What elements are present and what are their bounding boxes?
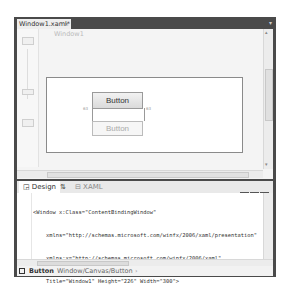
margin-marker-right: 63 (146, 106, 151, 111)
document-tab-label: Window1.xaml* (19, 20, 70, 28)
zoom-rail (17, 29, 39, 167)
tab-xaml[interactable]: ⊟ XAML (75, 181, 103, 193)
xaml-code[interactable]: <Window x:Class="ContentBindingWindow" x… (33, 194, 261, 294)
editor-frame: Window1.xaml* × ▾ Window1 Button 63 63 B… (14, 17, 276, 277)
element-icon (19, 268, 25, 274)
design-view-icon: ◲ (23, 183, 32, 191)
tab-design-label: Design (32, 183, 56, 191)
xaml-view-icon: ⊟ (75, 183, 83, 191)
document-tab-window1[interactable]: Window1.xaml* × (17, 19, 71, 29)
designer-button-selected[interactable]: Button (92, 92, 143, 109)
xaml-editor[interactable]: <Window x:Class="ContentBindingWindow" x… (17, 193, 273, 259)
code-line: xmlns="http://schemas.microsoft.com/winf… (33, 232, 261, 240)
code-gutter (17, 193, 32, 259)
design-surface[interactable]: Window1 Button 63 63 Button ▴ ▾ (17, 29, 273, 179)
close-icon[interactable]: × (64, 19, 69, 29)
zoom-fit-button[interactable] (22, 37, 34, 45)
designer-window-title: Window1 (54, 30, 84, 38)
tab-dropdown-icon[interactable]: ▾ (269, 19, 272, 26)
code-vertical-scrollbar[interactable] (263, 193, 273, 259)
designer-vscroll-thumb[interactable] (265, 69, 273, 121)
code-horizontal-scrollbar[interactable] (17, 259, 273, 266)
zoom-reset-button[interactable] (22, 119, 34, 127)
code-line: <Window x:Class="ContentBindingWindow" (33, 209, 261, 217)
designer-horizontal-scrollbar[interactable] (17, 170, 263, 178)
scroll-down-icon[interactable]: ▾ (265, 161, 268, 167)
designer-hscroll-thumb[interactable] (47, 172, 249, 178)
code-line: Title="Window1" Height="226" Width="300"… (33, 278, 261, 286)
scroll-up-icon[interactable]: ▴ (265, 29, 268, 35)
breadcrumb-element[interactable]: Button (29, 266, 54, 276)
designer-window-canvas[interactable]: Button 63 63 Button (46, 77, 243, 153)
element-breadcrumb: Button Window/Canvas/Button › (17, 266, 273, 276)
margin-marker-left: 63 (83, 106, 88, 111)
swap-panes-button[interactable]: ⇅ (60, 181, 66, 193)
tab-xaml-label: XAML (83, 183, 103, 191)
chevron-right-icon[interactable]: › (135, 266, 138, 276)
tab-design[interactable]: ◲ Design (19, 181, 60, 193)
zoom-slider-thumb[interactable] (22, 89, 34, 95)
document-tab-strip: Window1.xaml* × ▾ (14, 17, 276, 29)
selection-adorner (92, 108, 145, 121)
designer-button-ghost[interactable]: Button (92, 121, 143, 136)
breadcrumb-path[interactable]: Window/Canvas/Button (57, 266, 133, 276)
designer-vertical-scrollbar[interactable]: ▴ ▾ (263, 29, 273, 169)
